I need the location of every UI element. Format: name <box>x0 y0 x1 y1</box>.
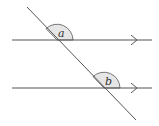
transversal-line <box>27 7 136 120</box>
angle-b-label: b <box>105 75 112 88</box>
parallel-lines-diagram: a b <box>0 0 159 126</box>
angle-a-label: a <box>58 27 65 40</box>
